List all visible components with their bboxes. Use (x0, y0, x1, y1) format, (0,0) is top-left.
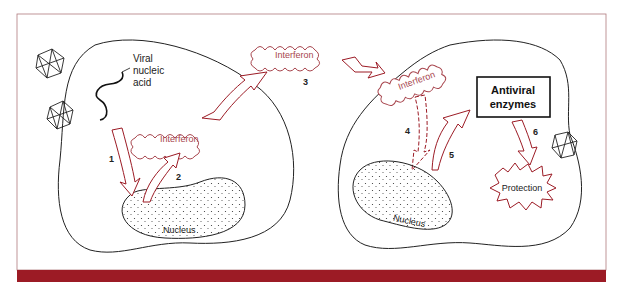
step-4-label: 4 (405, 126, 410, 136)
enzymes-label-1: Antiviral (491, 84, 535, 96)
viral-label-1: Viral (133, 53, 153, 64)
extracellular-interferon-label: Interferon (275, 50, 314, 60)
step-1-label: 1 (109, 154, 114, 164)
antiviral-enzymes-box (477, 77, 550, 117)
left-nucleus-label: Nucleus (163, 225, 196, 235)
step-6-label: 6 (533, 127, 538, 137)
step-2-label: 2 (176, 172, 181, 182)
bottom-band (17, 270, 606, 282)
step-5-label: 5 (449, 150, 454, 160)
viral-label-3: acid (133, 77, 151, 88)
interferon-diagram: Viral nucleic acid Nucleus Interferon 1 … (0, 0, 618, 295)
left-interferon-label: Interferon (160, 134, 199, 144)
viral-label-2: nucleic (133, 65, 164, 76)
step-3-label: 3 (303, 77, 308, 87)
protection-label: Protection (502, 183, 543, 193)
enzymes-label-2: enzymes (490, 98, 536, 110)
